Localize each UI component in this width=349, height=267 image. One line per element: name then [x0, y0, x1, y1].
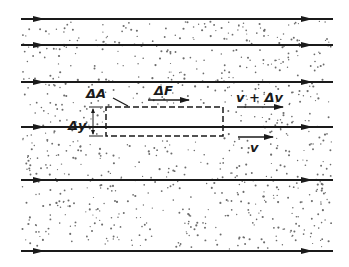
force-label: ΔF: [154, 84, 173, 97]
viscosity-shear-diagram: ΔA ΔF Δy v + Δv v: [0, 0, 349, 267]
thickness-dimension: [89, 107, 103, 136]
dimension-arrow-up-icon: [91, 108, 95, 113]
dimension-arrow-down-icon: [91, 130, 95, 135]
thickness-label: Δy: [68, 119, 87, 132]
lower-velocity-label: v: [250, 141, 258, 154]
area-label: ΔA: [86, 87, 106, 100]
diagram-canvas: [0, 0, 349, 267]
fluid-element-box: [106, 107, 223, 136]
upper-velocity-label: v + Δv: [236, 91, 283, 104]
area-leader-line: [113, 98, 128, 106]
